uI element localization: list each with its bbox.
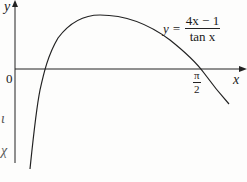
y-axis-arrow-icon [12, 0, 18, 7]
cutoff-glyph-a: ι [1, 112, 5, 126]
y-axis-label: y [4, 0, 10, 14]
equation-annotation: y = 4x − 1 tan x [163, 14, 220, 43]
cutoff-glyph-b: χ [1, 144, 7, 158]
tick-label-pi-over-2: π 2 [193, 70, 201, 95]
origin-label: 0 [6, 72, 13, 85]
x-axis-label: x [233, 73, 239, 87]
x-axis-arrow-icon [239, 66, 247, 72]
equation-fraction: 4x − 1 tan x [185, 14, 220, 43]
equation-lhs: y = [163, 21, 181, 37]
